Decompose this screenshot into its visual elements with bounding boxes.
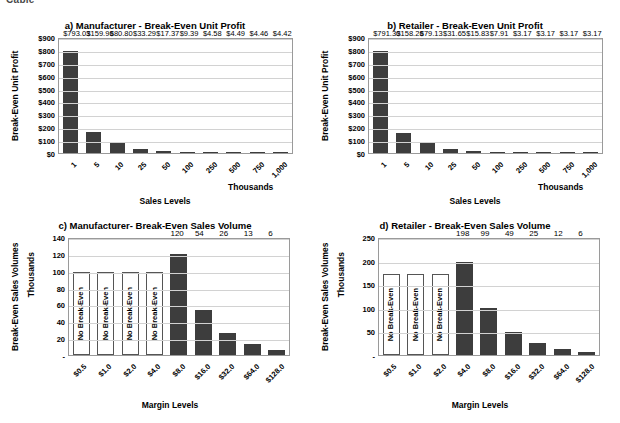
chart-a-data-bar: $33.29 [133,149,148,153]
chart-d-gridline [379,310,599,311]
chart-a-y-tick-label: $900 [0,34,55,43]
chart-b-gridline [369,129,602,130]
chart-a-gridline [59,142,292,143]
chart-a-bar-value-label: $9.39 [180,29,199,38]
chart-b-gridline [369,142,602,143]
chart-b-y-tick-label: $500 [310,85,365,94]
chart-b-gridline [369,78,602,79]
chart-a-bar-slot: $4.46 [245,39,268,153]
chart-c-gridline [69,256,289,257]
chart-b-bar-slot: $79.13 [416,39,439,153]
chart-a-y-tick-label: $400 [0,98,55,107]
chart-a-y-axis-title: Break-Even Unit Profit [10,38,20,154]
chart-d-gridline [379,286,599,287]
chart-b-bar-value-label: $15.83 [466,29,489,38]
chart-d-bar-value-label: 99 [480,229,489,238]
chart-c-no-break-even-bar: No Break-Even [97,272,114,355]
chart-b-bar-value-label: $31.65 [443,29,466,38]
chart-a-plot-area: $793.03$159.96$80.80$33.29$17.37$9.39$4.… [58,38,293,154]
chart-d-bar-value-label: 198 [456,229,469,238]
chart-a-y-tick-label: $800 [0,46,55,55]
chart-d-y-ticks: -50100150200250 [310,212,375,213]
chart-a-bar-slot: $80.80 [106,39,129,153]
chart-c-bar-value-label: 13 [244,229,253,238]
chart-panel-b: b) Retailer - Break-Even Unit Profit $0$… [310,14,620,210]
chart-b-bar-slot: $7.91 [485,39,508,153]
chart-c-gridline [69,290,289,291]
chart-b-y-tick-label: $300 [310,111,365,120]
chart-a-data-bar: $9.39 [180,152,195,154]
chart-b-bar-slot: $791.30 [369,39,392,153]
chart-a-x-unit-note: Thousands [228,182,273,192]
chart-a-y-tick-label: $200 [0,124,55,133]
chart-b-data-bar: $3.17 [513,152,528,154]
chart-b-bar-value-label: $3.17 [560,29,579,38]
chart-a-bar-slot: $4.58 [199,39,222,153]
chart-b-y-tick-label: $200 [310,124,365,133]
chart-b-data-bar: $3.17 [536,152,551,154]
chart-b-bar-slot: $158.26 [392,39,415,153]
chart-c-data-bar: 26 [219,333,236,355]
chart-b-bar-slot: $3.17 [509,39,532,153]
chart-c-y-ticks: -20406080100120140 [0,212,65,213]
chart-a-bar-slot: $9.39 [175,39,198,153]
chart-b-y-tick-label: $100 [310,137,365,146]
chart-b-y-tick-label: $0 [310,150,365,159]
chart-c-data-bar: 13 [244,344,261,355]
chart-d-bar-slot: 49 [501,239,525,355]
chart-d-gridline [379,263,599,264]
chart-a-bar-value-label: $4.58 [203,29,222,38]
chart-d-bar-slot: No Break-Even [428,239,452,355]
chart-a-y-tick-label: $600 [0,72,55,81]
chart-b-bar-slot: $15.83 [462,39,485,153]
chart-b-bar-value-label: $3.17 [513,29,532,38]
chart-b-gridline [369,39,602,40]
chart-b-bar-slot: $3.17 [555,39,578,153]
chart-a-data-bar: $4.49 [226,152,241,154]
chart-d-bar-slot: 6 [575,239,599,355]
chart-d-y-axis-title: Break-Even Sales Volumes [320,238,330,356]
chart-a-bar-slot: $4.42 [269,39,292,153]
chart-b-gridline [369,103,602,104]
chart-d-bar-value-label: 25 [529,229,538,238]
chart-a-y-ticks: $0$100$200$300$400$500$600$700$800$900 [0,14,55,15]
chart-b-bar-value-label: $3.17 [583,29,602,38]
chart-d-x-axis-title: Margin Levels [360,400,600,410]
chart-d-bars: No Break-EvenNo Break-EvenNo Break-Even1… [379,239,599,355]
chart-d-bar-slot: 25 [526,239,550,355]
chart-d-data-bar: 49 [505,332,522,355]
chart-b-bar-value-label: $7.91 [490,29,509,38]
chart-b-plot-area: $791.30$158.26$79.13$31.65$15.83$7.91$3.… [368,38,603,154]
chart-c-data-bar: 6 [268,350,285,355]
chart-c-no-break-even-bar: No Break-Even [122,272,139,355]
chart-a-gridline [59,91,292,92]
chart-a-data-bar: $4.42 [273,152,288,154]
chart-a-gridline [59,129,292,130]
chart-a-data-bar: $80.80 [110,143,125,153]
chart-b-data-bar: $31.65 [443,149,458,153]
chart-a-bars: $793.03$159.96$80.80$33.29$17.37$9.39$4.… [59,39,292,153]
no-break-even-label: No Break-Even [102,287,110,340]
chart-b-gridline [369,91,602,92]
no-break-even-label: No Break-Even [126,287,134,340]
chart-c-data-bar: 54 [195,310,212,356]
chart-panel-d: d) Retailer - Break-Even Sales Volume -5… [310,212,620,423]
chart-b-data-bar: $791.30 [373,51,388,153]
chart-a-data-bar: $17.37 [156,151,171,153]
chart-a-bar-value-label: $4.46 [250,29,269,38]
chart-c-title: c) Manufacturer- Break-Even Sales Volume [0,220,310,231]
chart-a-y-tick-label: $700 [0,59,55,68]
chart-b-data-bar: $15.83 [466,151,481,153]
no-break-even-label: No Break-Even [77,287,85,340]
chart-d-gridline [379,239,599,240]
chart-panel-a: a) Manufacturer - Break-Even Unit Profit… [0,14,310,210]
chart-d-bar-slot: 12 [550,239,574,355]
chart-a-gridline [59,39,292,40]
chart-b-x-unit-note: Thousands [538,182,583,192]
chart-a-data-bar: $4.46 [250,152,265,154]
chart-c-gridline [69,306,289,307]
chart-a-gridline [59,116,292,117]
chart-b-bar-slot: $3.17 [532,39,555,153]
chart-c-bar-value-label: 26 [219,229,228,238]
chart-b-y-axis-title: Break-Even Unit Profit [320,38,330,154]
